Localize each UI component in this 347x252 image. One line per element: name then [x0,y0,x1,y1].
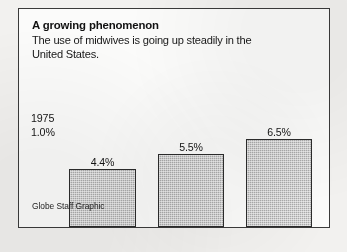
bar-value-label-1996: 6.5% [267,126,290,138]
reference-value: 1.0% [31,126,55,140]
baseline-reference-label: 1975 1.0% [31,112,55,139]
bar-rect-1995 [158,154,224,227]
bar-rect-1994 [69,169,136,227]
bar-value-label-1994: 4.4% [91,156,114,168]
bar-group-1996: 6.5% 1996 [246,67,312,227]
bar-value-label-1995: 5.5% [179,141,202,153]
bar-group-1995: 5.5% 1995 [158,67,224,227]
source-credit: Globe Staff Graphic [32,201,104,211]
bar-rect-1996 [246,139,312,227]
plot-area: 1975 1.0% 4.4% 1994 5.5% 1995 6.5% 1996 [19,9,329,227]
figure-frame: A growing phenomenon The use of midwives… [18,8,330,228]
reference-year: 1975 [31,112,55,126]
